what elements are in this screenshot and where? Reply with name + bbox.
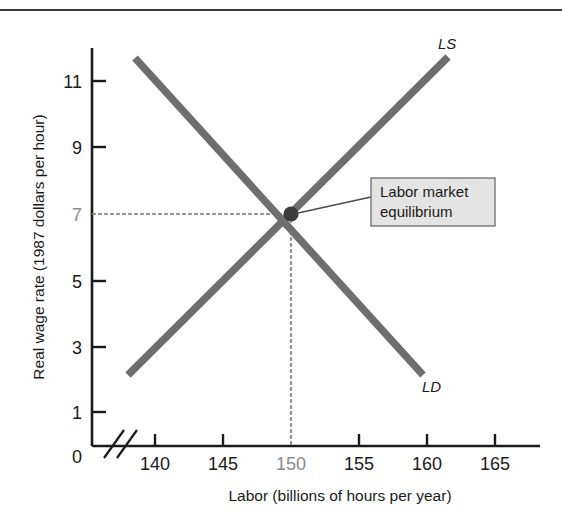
x-tick-label-145: 145 — [208, 454, 238, 474]
x-tick-label-165: 165 — [480, 454, 510, 474]
figure-container: 11 9 7 5 3 1 0 140 145 150 155 160 — [0, 0, 562, 517]
y-tick-label-5: 5 — [72, 272, 82, 292]
x-axis-ticks — [155, 434, 495, 446]
x-axis-tick-labels: 140 145 150 155 160 165 — [140, 454, 510, 474]
x-tick-label-160: 160 — [412, 454, 442, 474]
y-axis-ticks — [92, 81, 106, 412]
x-axis-title: Labor (billions of hours per year) — [228, 487, 451, 504]
x-axis-break-icon — [104, 430, 137, 458]
origin-label: 0 — [72, 447, 82, 467]
ld-curve-label: LD — [422, 378, 441, 395]
y-axis-title: Real wage rate (1987 dollars per hour) — [30, 114, 47, 379]
y-tick-label-9: 9 — [72, 138, 82, 158]
x-tick-label-140: 140 — [140, 454, 170, 474]
y-tick-label-3: 3 — [72, 338, 82, 358]
callout-line-1: Labor market — [380, 183, 469, 200]
labor-market-chart: 11 9 7 5 3 1 0 140 145 150 155 160 — [0, 0, 562, 517]
x-tick-label-155: 155 — [344, 454, 374, 474]
y-axis-tick-labels: 11 9 7 5 3 1 0 — [63, 72, 82, 467]
y-tick-label-1: 1 — [72, 403, 82, 423]
ls-curve-label: LS — [438, 35, 456, 52]
y-tick-label-7: 7 — [72, 205, 82, 225]
equilibrium-guides — [93, 214, 291, 445]
x-tick-label-150: 150 — [276, 454, 306, 474]
top-divider-rule — [0, 9, 562, 11]
labor-market-equilibrium-callout: Labor market equilibrium — [371, 178, 495, 226]
equilibrium-point-marker — [283, 206, 298, 221]
axes — [92, 48, 540, 446]
y-tick-label-11: 11 — [63, 72, 82, 92]
callout-line-2: equilibrium — [380, 203, 453, 220]
